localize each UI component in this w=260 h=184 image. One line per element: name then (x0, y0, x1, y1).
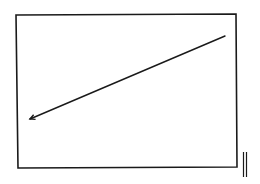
double-vertical-bar (244, 152, 247, 177)
diagram-canvas (0, 0, 260, 184)
rectangle-frame (16, 14, 237, 168)
arrow (30, 36, 225, 119)
arrow-shaft (30, 36, 225, 119)
